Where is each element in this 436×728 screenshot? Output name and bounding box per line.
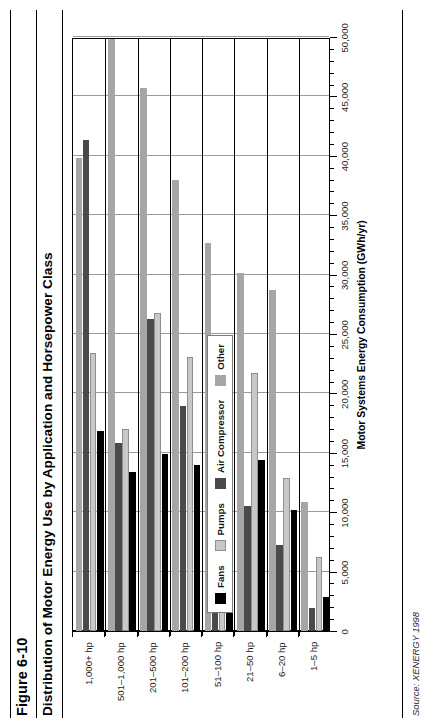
value-axis-tick-minor [330,488,334,489]
chart-plot-area: FansPumpsAir CompressorOther [72,38,330,632]
legend-item-other[interactable]: Other [215,344,226,386]
value-axis-tick-major [330,512,337,513]
category-axis-tick [72,632,73,637]
value-axis-tick-minor [330,536,334,537]
value-axis-tick-major [330,334,337,335]
value-axis-tick-minor [330,370,334,371]
value-axis-tick-minor [330,263,334,264]
legend-item-air-compressor[interactable]: Air Compressor [215,400,226,489]
value-axis-tick-minor [330,441,334,442]
value-axis-tick-minor [330,120,334,121]
value-axis-tick-label: 45,000 [339,83,350,112]
category-axis-tick [104,632,105,637]
value-axis-tick-minor [330,251,334,252]
value-axis-tick-label: 10,000 [339,498,350,527]
value-axis-tick-minor [330,465,334,466]
value-axis-tick-minor [330,346,334,347]
value-axis-tick-minor [330,132,334,133]
chart-legend: FansPumpsAir CompressorOther [207,335,233,613]
bar-air-compressor [115,443,122,631]
bar-other [301,502,308,631]
value-axis-title: Motor Systems Energy Consumption (GWh/yr… [356,220,367,449]
value-axis-tick-label: 0 [339,629,350,634]
category-axis-tick [169,632,170,637]
value-axis-tick-minor [330,417,334,418]
header-rule-top [10,10,11,718]
value-axis-tick-minor [330,405,334,406]
header-rule-bottom [62,10,63,718]
legend-swatch-air-compressor [215,478,226,489]
figure-page: Figure 6-10 Distribution of Motor Energy… [0,0,436,728]
bar-fans [129,472,136,631]
value-axis-tick-minor [330,286,334,287]
bar-pumps [251,373,258,631]
bar-air-compressor [309,608,316,631]
category-axis-tick [137,632,138,637]
bar-pumps [187,357,194,631]
value-axis-tick-major [330,393,337,394]
value-axis-tick-major [330,37,337,38]
bar-pumps [90,353,97,631]
bar-other [237,273,244,631]
value-axis-tick-label: 25,000 [339,320,350,349]
legend-label: Air Compressor [215,400,226,473]
legend-swatch-pumps [215,540,226,551]
value-axis-tick-minor [330,548,334,549]
value-axis-tick-major [330,275,337,276]
category-axis-label: 21–50 hp [244,642,255,682]
bar-pumps [316,557,323,631]
value-axis-tick-minor [330,191,334,192]
value-axis-tick-minor [330,477,334,478]
bar-air-compressor [180,406,187,631]
value-axis-tick-minor [330,607,334,608]
value-axis-tick-minor [330,560,334,561]
value-axis-tick-major [330,156,337,157]
legend-item-fans[interactable]: Fans [215,565,226,604]
bar-fans [323,597,330,631]
value-axis-tick-major [330,215,337,216]
value-axis-tick-major [330,631,337,632]
figure-number: Figure 6-10 [14,638,30,716]
value-axis-tick-minor [330,180,334,181]
value-axis-tick-minor [330,595,334,596]
footer-rule [402,10,403,718]
bar-other [172,180,179,631]
value-axis-tick-minor [330,239,334,240]
value-axis-tick-major [330,453,337,454]
value-axis-tick-minor [330,49,334,50]
bar-pumps [154,313,161,631]
bar-fans [162,454,169,631]
category-axis-label: 51–100 hp [212,642,223,687]
value-axis-tick-major [330,572,337,573]
category-separator [267,39,268,636]
bar-fans [291,510,298,631]
value-axis-tick-minor [330,429,334,430]
bar-air-compressor [83,140,90,631]
value-axis-tick-label: 40,000 [339,142,350,171]
category-separator [138,39,139,636]
category-separator [299,39,300,636]
category-axis-tick [298,632,299,637]
bar-fans [97,431,104,631]
bar-fans [258,460,265,631]
category-axis-label: 1,000+ hp [83,642,94,685]
rotated-figure-canvas: Figure 6-10 Distribution of Motor Energy… [0,0,436,728]
value-axis-tick-label: 30,000 [339,261,350,290]
bar-air-compressor [244,506,251,631]
bar-other [140,88,147,631]
value-axis-tick-minor [330,322,334,323]
value-axis-tick-major [330,96,337,97]
value-axis-tick-minor [330,310,334,311]
value-axis-tick-minor [330,203,334,204]
category-axis-label: 6–20 hp [276,642,287,677]
value-axis-tick-label: 50,000 [339,23,350,52]
bar-air-compressor [147,319,154,631]
figure-source: Source: XENERGY 1998 [410,612,421,716]
bar-air-compressor [276,545,283,631]
value-axis-tick-minor [330,168,334,169]
legend-label: Fans [215,565,226,588]
category-axis-label: 201–500 hp [147,642,158,693]
legend-item-pumps[interactable]: Pumps [215,503,226,551]
category-separator [234,39,235,636]
value-axis-tick-label: 35,000 [339,201,350,230]
